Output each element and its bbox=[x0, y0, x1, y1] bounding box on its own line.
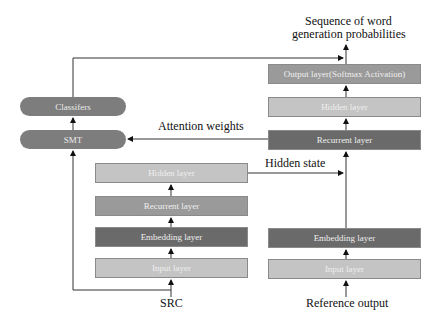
encoder-embedding-layer: Embedding layer bbox=[95, 227, 248, 247]
encoder-hidden-layer: Hidden layer bbox=[95, 163, 248, 183]
encoder-recurrent-layer: Recurrent layer bbox=[95, 196, 248, 216]
decoder-output-layer: Output layer(Softmax Activation) bbox=[268, 64, 421, 84]
decoder-hidden-layer: Hidden layer bbox=[268, 97, 421, 117]
decoder-embedding-layer: Embedding layer bbox=[268, 228, 421, 248]
reference-output-label: Reference output bbox=[306, 296, 388, 311]
decoder-input-layer: Input layer bbox=[268, 259, 421, 279]
decoder-recurrent-layer: Recurrent layer bbox=[268, 130, 421, 150]
src-label: SRC bbox=[160, 296, 183, 311]
hidden-state-label: Hidden state bbox=[265, 156, 325, 171]
smt-node: SMT bbox=[20, 130, 126, 149]
classifiers-node: Classifers bbox=[20, 97, 126, 116]
attention-weights-label: Attention weights bbox=[158, 119, 244, 134]
output-title-line2: generation probabilities bbox=[292, 27, 406, 42]
encoder-input-layer: Input layer bbox=[95, 258, 248, 278]
